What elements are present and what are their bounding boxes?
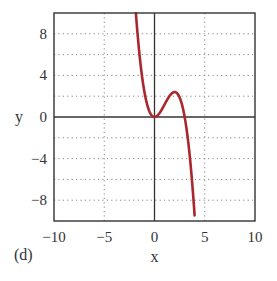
- data-curve: [136, 13, 195, 215]
- x-tick-labels: −10−50510: [42, 229, 262, 245]
- panel-label: (d): [14, 246, 33, 264]
- x-tick-label: 0: [151, 229, 159, 245]
- y-tick-label: −4: [31, 151, 47, 167]
- chart: −10−50510 −8−4048 x y (d): [0, 0, 277, 281]
- y-axis-label: y: [15, 108, 23, 126]
- x-tick-label: 5: [201, 229, 209, 245]
- x-axis-label: x: [151, 248, 159, 265]
- y-tick-labels: −8−4048: [31, 26, 47, 208]
- x-tick-label: −10: [42, 229, 65, 245]
- y-tick-label: 4: [40, 67, 48, 83]
- y-tick-label: 0: [40, 109, 48, 125]
- y-tick-label: 8: [40, 26, 48, 42]
- x-tick-label: −5: [96, 229, 112, 245]
- y-tick-label: −8: [31, 192, 47, 208]
- x-tick-label: 10: [248, 229, 263, 245]
